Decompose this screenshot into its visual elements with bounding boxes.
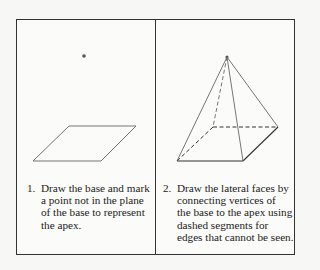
panel-1-figure <box>33 54 136 161</box>
step-number: 1. <box>27 182 35 194</box>
base-right-edge <box>243 127 278 161</box>
lateral-edge-back-left-hidden <box>213 57 227 127</box>
lateral-edge-front-left <box>177 57 227 161</box>
lateral-edge-front-right <box>227 57 243 161</box>
caption-line: a point not in the plane <box>41 194 150 206</box>
caption-line: the base to the apex using <box>177 206 294 218</box>
apex-point <box>82 54 86 58</box>
caption-line: connecting vertices of <box>177 194 294 206</box>
panel-2-figure <box>177 55 278 161</box>
caption-line: the apex. <box>41 219 150 231</box>
lateral-edge-back-right <box>227 57 278 127</box>
caption-line: Draw the lateral faces by <box>177 182 294 194</box>
step-number: 2. <box>163 182 171 194</box>
base-left-edge-hidden <box>177 127 213 161</box>
caption-line: Draw the base and mark <box>41 182 150 194</box>
caption-line: edges that cannot be seen. <box>177 231 294 243</box>
caption-line: dashed segments for <box>177 219 294 231</box>
caption-line: of the base to represent <box>41 206 150 218</box>
base-parallelogram <box>33 126 136 161</box>
